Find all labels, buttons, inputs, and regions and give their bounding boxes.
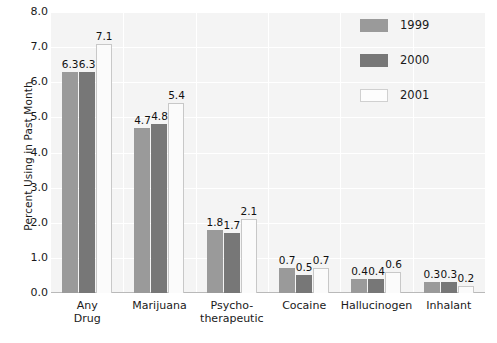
x-category-label-line: Any: [51, 299, 123, 312]
x-category-label-line: Drug: [51, 312, 123, 325]
y-tick-label: 1.0: [10, 251, 48, 264]
bars: 4.74.85.4: [123, 12, 195, 293]
series-1999-swatch: [360, 19, 388, 32]
y-tick-label: 8.0: [10, 5, 48, 18]
bar[interactable]: [296, 275, 312, 293]
x-category-label: Inhalant: [413, 299, 485, 312]
bar[interactable]: [62, 72, 78, 293]
x-category-label: Cocaine: [268, 299, 340, 312]
y-tick-label: 5.0: [10, 110, 48, 123]
bars: 0.70.50.7: [268, 12, 340, 293]
y-axis-tick-labels: 8.07.06.05.04.03.02.01.00.0: [0, 0, 48, 343]
bar[interactable]: [151, 124, 167, 293]
legend-item-label: 2000: [400, 53, 429, 67]
bar-chart: Percent Using in Past Month 8.07.06.05.0…: [0, 0, 497, 343]
bar[interactable]: [385, 272, 401, 293]
bar[interactable]: [241, 219, 257, 293]
series-2000-swatch: [360, 54, 388, 67]
bar-value-label: 7.1: [91, 30, 117, 42]
legend-item-label: 1999: [400, 18, 429, 32]
bar-group: 1.81.72.1: [196, 12, 268, 293]
bars: 1.81.72.1: [196, 12, 268, 293]
bar[interactable]: [168, 103, 184, 293]
bar-value-label: 0.2: [453, 272, 479, 284]
bar-value-label: 5.4: [163, 89, 189, 101]
x-category-label-line: therapeutic: [196, 312, 268, 325]
bar[interactable]: [441, 282, 457, 293]
bars: 6.36.37.1: [51, 12, 123, 293]
series-2001-swatch: [360, 89, 388, 102]
y-tick-label: 7.0: [10, 40, 48, 53]
x-category-label-line: Psycho-: [196, 299, 268, 312]
x-category-label-line: Inhalant: [413, 299, 485, 312]
bar[interactable]: [424, 282, 440, 293]
y-tick-label: 0.0: [10, 286, 48, 299]
bar-group: 0.70.50.7: [268, 12, 340, 293]
y-tick-label: 6.0: [10, 75, 48, 88]
x-category-label: Marijuana: [123, 299, 195, 312]
x-category-label-line: Hallucinogen: [340, 299, 412, 312]
bar-value-label: 0.7: [308, 254, 334, 266]
y-tick-label: 3.0: [10, 181, 48, 194]
bar[interactable]: [224, 233, 240, 293]
x-category-label: Psycho-therapeutic: [196, 299, 268, 325]
x-category-label: AnyDrug: [51, 299, 123, 325]
bar[interactable]: [207, 230, 223, 293]
x-category-label-line: Cocaine: [268, 299, 340, 312]
y-tick-label: 4.0: [10, 146, 48, 159]
x-category-label: Hallucinogen: [340, 299, 412, 312]
bar-group: 6.36.37.1: [51, 12, 123, 293]
bar-value-label: 2.1: [236, 205, 262, 217]
bar-value-label: 0.6: [380, 258, 406, 270]
y-tick-label: 2.0: [10, 216, 48, 229]
bar[interactable]: [134, 128, 150, 293]
bar[interactable]: [351, 279, 367, 293]
bar-group: 4.74.85.4: [123, 12, 195, 293]
bar[interactable]: [79, 72, 95, 293]
legend-item-label: 2001: [400, 88, 429, 102]
bar[interactable]: [96, 44, 112, 293]
bar[interactable]: [313, 268, 329, 293]
x-category-label-line: Marijuana: [123, 299, 195, 312]
bar[interactable]: [368, 279, 384, 293]
bar[interactable]: [458, 286, 474, 293]
